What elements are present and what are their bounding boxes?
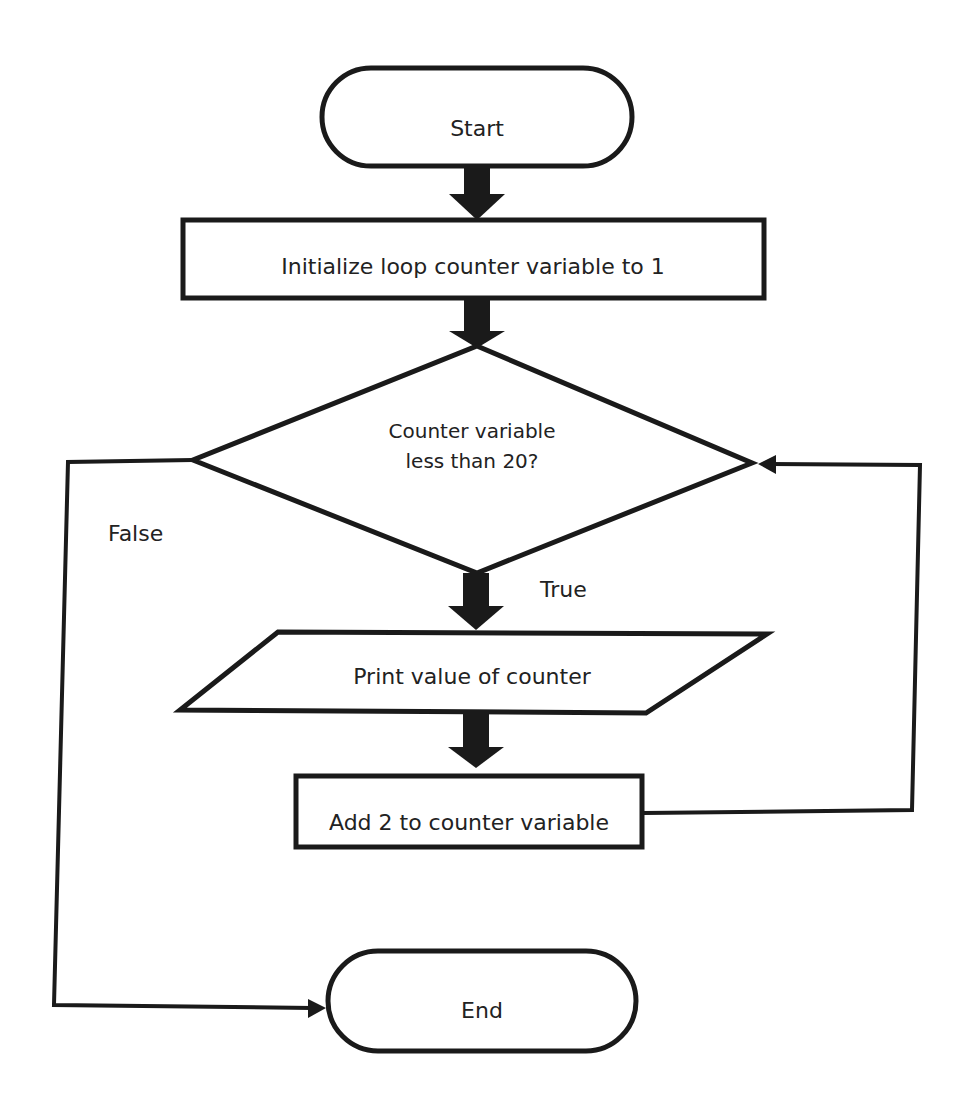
flowchart-canvas: Start Initialize loop counter variable t… xyxy=(0,0,972,1120)
print-node: Print value of counter xyxy=(180,632,767,713)
arrow-print-to-add xyxy=(448,714,504,768)
end-node: End xyxy=(328,951,636,1051)
add-node: Add 2 to counter variable xyxy=(296,776,642,847)
init-node: Initialize loop counter variable to 1 xyxy=(183,220,764,298)
add-label: Add 2 to counter variable xyxy=(329,810,609,835)
end-label: End xyxy=(461,998,503,1023)
false-connector xyxy=(54,460,326,1018)
arrow-start-to-init xyxy=(449,167,505,220)
decision-node: Counter variable less than 20? xyxy=(193,346,752,573)
start-node: Start xyxy=(322,68,632,166)
decision-label-line2: less than 20? xyxy=(406,449,539,473)
init-label: Initialize loop counter variable to 1 xyxy=(281,254,665,279)
print-label: Print value of counter xyxy=(353,664,591,689)
decision-label-line1: Counter variable xyxy=(389,419,556,443)
false-edge-label: False xyxy=(108,521,163,546)
arrow-true-to-print xyxy=(448,573,504,630)
start-label: Start xyxy=(450,116,504,141)
arrow-init-to-decision xyxy=(449,299,505,348)
true-edge-label: True xyxy=(539,577,587,602)
loop-arrowhead-icon xyxy=(758,455,776,474)
false-arrowhead-icon xyxy=(308,999,326,1018)
